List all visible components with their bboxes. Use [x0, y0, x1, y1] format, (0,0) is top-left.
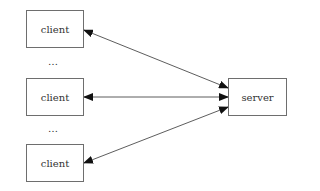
client-label: client: [41, 158, 69, 169]
client-node-1: client: [26, 10, 84, 48]
client-label: client: [41, 24, 69, 35]
edge-client3-server: [84, 107, 228, 163]
ellipsis-bottom: …: [48, 124, 59, 134]
edge-client1-server: [84, 30, 228, 88]
client-node-2: client: [26, 78, 84, 116]
client-label: client: [41, 92, 69, 103]
ellipsis-top: …: [48, 57, 59, 67]
client-node-3: client: [26, 144, 84, 182]
server-node: server: [228, 78, 287, 116]
server-label: server: [241, 92, 273, 103]
